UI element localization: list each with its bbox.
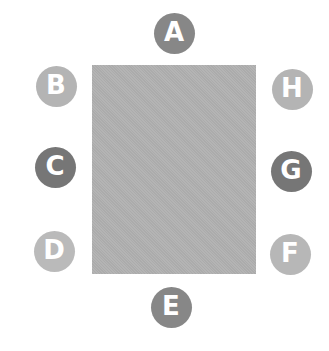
badge-h-label: H bbox=[281, 75, 303, 101]
badge-a: A bbox=[154, 13, 195, 54]
badge-f: F bbox=[270, 234, 311, 275]
badge-a-label: A bbox=[164, 19, 184, 45]
badge-d-label: D bbox=[43, 237, 65, 263]
center-rectangle bbox=[92, 65, 256, 274]
badge-e-label: E bbox=[162, 293, 180, 319]
badge-g: G bbox=[271, 151, 312, 192]
badge-d: D bbox=[34, 231, 75, 272]
badge-e: E bbox=[151, 287, 192, 328]
badge-b: B bbox=[36, 66, 77, 107]
diagram-stage: A B C D E F G H bbox=[0, 0, 329, 351]
badge-f-label: F bbox=[281, 240, 299, 266]
badge-b-label: B bbox=[46, 72, 66, 98]
badge-g-label: G bbox=[280, 157, 301, 183]
badge-c-label: C bbox=[45, 153, 64, 179]
badge-h: H bbox=[272, 69, 313, 110]
badge-c: C bbox=[35, 147, 76, 188]
